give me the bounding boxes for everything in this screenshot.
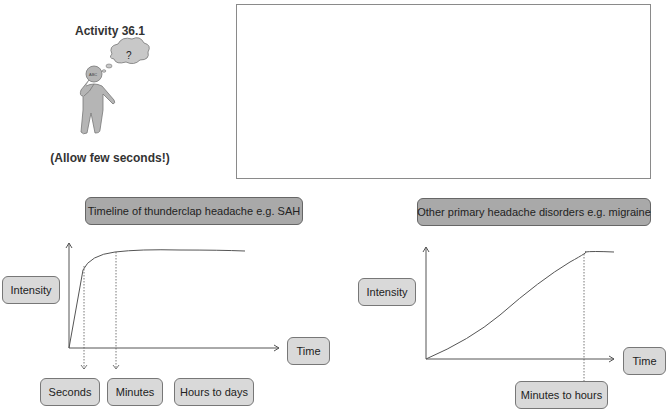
svg-text:?: ? [126, 50, 132, 61]
time-label-hours-to-days: Hours to days [174, 378, 254, 406]
activity-note: (Allow few seconds!) [40, 151, 180, 165]
right-y-axis-label: Intensity [358, 278, 416, 306]
time-label-minutes-to-hours: Minutes to hours [515, 381, 608, 409]
left-y-axis-label: Intensity [2, 276, 60, 304]
left-x-axis-label: Time [287, 337, 330, 365]
answer-box[interactable] [236, 4, 651, 179]
time-label-seconds: Seconds [40, 378, 100, 406]
time-label-minutes: Minutes [107, 378, 163, 406]
right-panel-title: Other primary headache disorders e.g. mi… [417, 198, 651, 226]
svg-text:ABC: ABC [89, 72, 97, 77]
right-x-axis-label: Time [623, 347, 666, 375]
left-panel-title: Timeline of thunderclap headache e.g. SA… [85, 197, 303, 225]
activity-title: Activity 36.1 [50, 24, 170, 38]
